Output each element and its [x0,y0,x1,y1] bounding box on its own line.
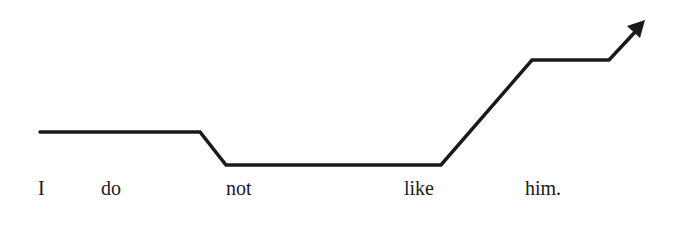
word-like: like [404,178,434,198]
word-not: not [226,178,252,198]
word-do: do [101,178,121,198]
word-him: him. [525,178,561,198]
word-i: I [38,178,45,198]
pitch-contour-line [40,31,636,165]
